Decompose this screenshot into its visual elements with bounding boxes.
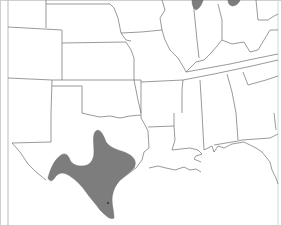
detail-marker [107,202,109,204]
range-map [0,0,282,226]
map-svg [0,0,282,226]
